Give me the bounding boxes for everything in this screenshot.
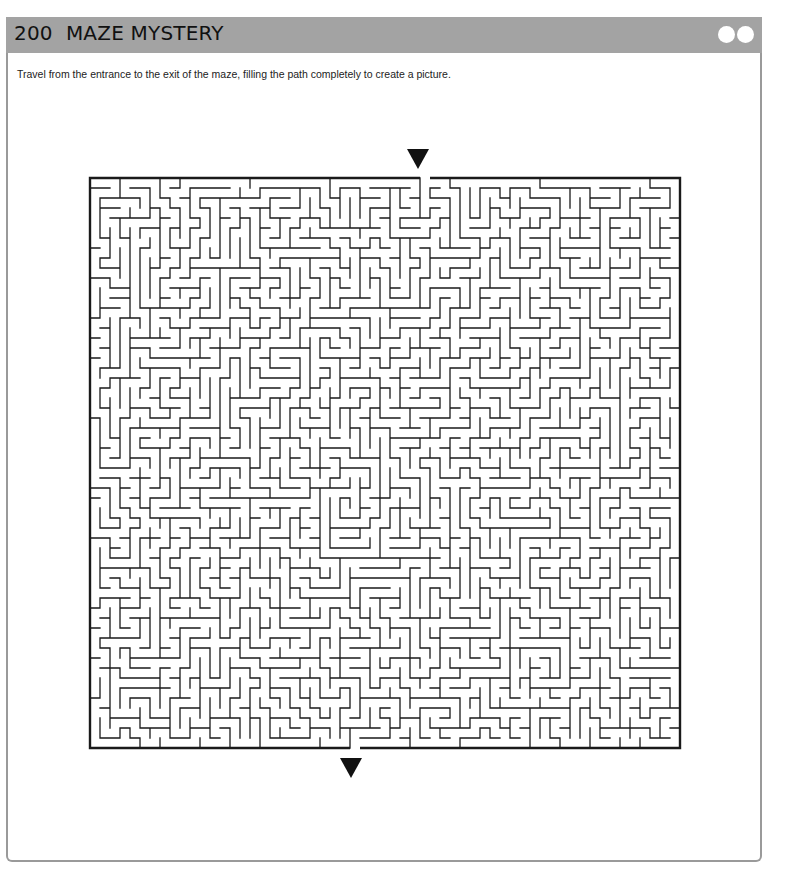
maze-grid[interactable] [88, 176, 682, 750]
exit-arrow-icon [340, 758, 362, 778]
entrance-arrow-icon [407, 149, 429, 169]
page-title: 200 MAZE MYSTERY [14, 21, 224, 45]
window-buttons [718, 26, 754, 43]
circle-button-icon[interactable] [737, 26, 754, 43]
maze-border [90, 178, 680, 748]
title-bar: 200 MAZE MYSTERY [6, 17, 762, 53]
maze-walls [90, 178, 680, 748]
instructions-text: Travel from the entrance to the exit of … [17, 68, 451, 80]
circle-button-icon[interactable] [718, 26, 735, 43]
